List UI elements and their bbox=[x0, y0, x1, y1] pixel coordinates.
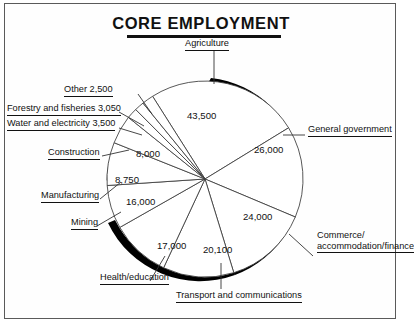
value-mining: 16,000 bbox=[126, 196, 155, 207]
callout-commerce-line2: accommodation/finance bbox=[317, 241, 414, 254]
value-agriculture: 43,500 bbox=[187, 110, 216, 121]
callout-manufacturing-label: Manufacturing bbox=[41, 190, 99, 203]
callout-health-education-label: Health/education bbox=[100, 272, 169, 285]
value-general-gov: 26,000 bbox=[254, 144, 283, 155]
callout-water-electricity-label: Water and electricity 3,500 bbox=[7, 118, 115, 131]
callout-commerce[interactable]: Commerce/ accommodation/finance bbox=[317, 230, 414, 253]
callout-forestry-fisheries[interactable]: Forestry and fisheries 3,050 bbox=[7, 103, 121, 116]
callout-agriculture[interactable]: Agriculture bbox=[185, 38, 229, 51]
chart-frame: CORE EMPLOYMENT bbox=[4, 3, 396, 319]
callout-mining[interactable]: Mining bbox=[71, 217, 98, 230]
value-commerce: 24,000 bbox=[243, 211, 272, 222]
callout-construction-label: Construction bbox=[48, 147, 100, 160]
callout-transport[interactable]: Transport and communications bbox=[176, 290, 302, 303]
callout-agriculture-label: Agriculture bbox=[185, 38, 229, 51]
callout-manufacturing[interactable]: Manufacturing bbox=[41, 190, 99, 203]
value-manufacturing: 8,750 bbox=[115, 174, 139, 185]
pie-chart-graphic bbox=[5, 4, 397, 320]
value-transport: 20,100 bbox=[203, 244, 232, 255]
callout-general-government[interactable]: General government bbox=[308, 124, 392, 137]
callout-construction[interactable]: Construction bbox=[48, 147, 100, 160]
callout-transport-label: Transport and communications bbox=[176, 290, 302, 303]
callout-other-label: Other 2,500 bbox=[64, 84, 113, 97]
callout-commerce-line1: Commerce/ bbox=[317, 230, 414, 241]
callout-health-education[interactable]: Health/education bbox=[100, 272, 169, 285]
callout-general-government-label: General government bbox=[308, 124, 392, 137]
callout-other[interactable]: Other 2,500 bbox=[64, 84, 113, 97]
value-health: 17,000 bbox=[157, 240, 186, 251]
callout-forestry-fisheries-label: Forestry and fisheries 3,050 bbox=[7, 103, 121, 116]
leader-commerce bbox=[289, 234, 313, 256]
callout-mining-label: Mining bbox=[71, 217, 98, 230]
callout-water-electricity[interactable]: Water and electricity 3,500 bbox=[7, 118, 115, 131]
value-construction: 8,000 bbox=[136, 148, 160, 159]
